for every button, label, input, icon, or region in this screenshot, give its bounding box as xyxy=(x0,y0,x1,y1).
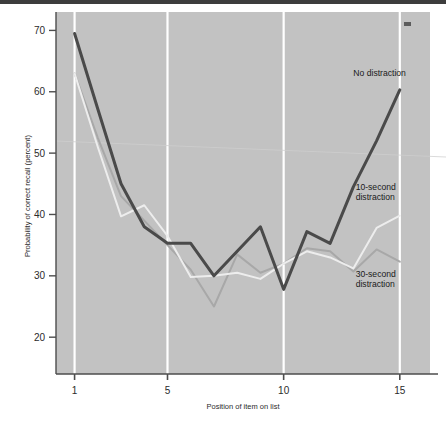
y-axis-title: Probability of correct recall (percent) xyxy=(23,135,32,257)
x-tick-label-1: 1 xyxy=(72,385,78,396)
y-tick-label-30: 30 xyxy=(34,270,46,281)
series-label-line1: 30-second xyxy=(356,269,396,279)
chart-plot-wrapper: 203040506070 151015 No distraction10-sec… xyxy=(0,0,446,438)
series-label-line1: 10-second xyxy=(356,182,396,192)
y-tick-label-40: 40 xyxy=(34,209,46,220)
figure-container: 203040506070 151015 No distraction10-sec… xyxy=(0,0,446,438)
x-axis-ticks-group xyxy=(75,374,400,380)
series-label-line2: distraction xyxy=(356,192,395,202)
y-axis-ticks-group xyxy=(49,30,56,337)
y-tick-label-60: 60 xyxy=(34,86,46,97)
x-axis-tick-labels-group: 151015 xyxy=(72,385,406,396)
serial-position-curve-chart: 203040506070 151015 No distraction10-sec… xyxy=(0,0,446,438)
series-label-30-second-distraction: 30-seconddistraction xyxy=(356,269,396,289)
x-axis-title: Position of item on list xyxy=(207,402,281,411)
y-tick-label-20: 20 xyxy=(34,332,46,343)
x-tick-label-15: 15 xyxy=(394,385,406,396)
y-tick-label-70: 70 xyxy=(34,25,46,36)
x-tick-label-10: 10 xyxy=(278,385,290,396)
series-label-line2: distraction xyxy=(356,279,395,289)
corner-mark-icon xyxy=(404,22,411,26)
series-label-10-second-distraction: 10-seconddistraction xyxy=(356,182,396,202)
y-axis-tick-labels-group: 203040506070 xyxy=(34,25,46,343)
series-label-no-distraction: No distraction xyxy=(353,68,406,78)
y-tick-label-50: 50 xyxy=(34,148,46,159)
x-tick-label-5: 5 xyxy=(165,385,171,396)
